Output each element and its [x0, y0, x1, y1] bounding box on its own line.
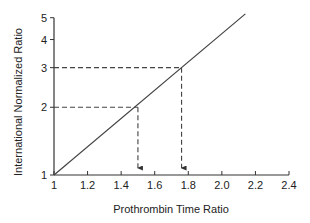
x-tick-label: 2.2 — [248, 179, 263, 191]
inr-chart: 11.21.41.61.82.02.22.412345 Prothrombin … — [0, 0, 310, 223]
x-tick-label: 2.4 — [281, 179, 296, 191]
y-tick-label: 4 — [41, 34, 47, 46]
axes — [50, 18, 289, 175]
data-series — [54, 14, 245, 175]
x-tick-label: 1.8 — [181, 179, 196, 191]
y-tick-label: 3 — [41, 62, 47, 74]
tick-labels: 11.21.41.61.82.02.22.412345 — [41, 12, 297, 191]
x-tick-label: 1 — [51, 179, 57, 191]
dashed-guides — [54, 68, 182, 168]
y-axis-title: International Normalized Ratio — [12, 28, 24, 176]
x-tick-label: 2.0 — [214, 179, 229, 191]
inr-line — [54, 14, 245, 175]
y-tick-label: 5 — [41, 12, 47, 24]
y-tick-label: 1 — [41, 169, 47, 181]
x-tick-label: 1.6 — [147, 179, 162, 191]
x-axis-title: Prothrombin Time Ratio — [113, 203, 229, 215]
x-tick-label: 1.4 — [113, 179, 128, 191]
x-tick-label: 1.2 — [80, 179, 95, 191]
y-tick-label: 2 — [41, 101, 47, 113]
